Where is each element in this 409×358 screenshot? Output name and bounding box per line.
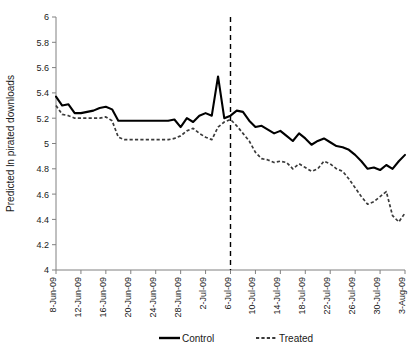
x-tick-label: 2-Jul-09	[198, 277, 208, 310]
legend-label-control: Control	[182, 333, 214, 344]
x-tick-label: 18-Jul-09	[297, 277, 307, 315]
x-tick-label: 22-Jul-09	[322, 277, 332, 315]
line-chart: 44.24.44.64.855.25.45.65.86 8-Jun-0912-J…	[0, 0, 409, 358]
y-tick-label: 4.2	[36, 240, 49, 250]
x-tick-label: 10-Jul-09	[247, 277, 257, 315]
y-tick-label: 5.4	[36, 88, 49, 98]
y-tick-label: 5	[44, 139, 49, 149]
x-tick-label: 30-Jul-09	[372, 277, 382, 315]
y-tick-label: 6	[44, 12, 49, 22]
y-tick-label: 4.8	[36, 164, 49, 174]
x-tick-label: 14-Jul-09	[272, 277, 282, 315]
x-tick-label: 16-Jun-09	[98, 277, 108, 318]
y-tick-label: 4	[44, 265, 49, 275]
x-tick-label: 28-Jun-09	[173, 277, 183, 318]
y-tick-label: 5.2	[36, 114, 49, 124]
y-axis-tick-group: 44.24.44.64.855.25.45.65.86	[36, 12, 56, 275]
y-tick-label: 5.6	[36, 63, 49, 73]
x-tick-label: 12-Jun-09	[73, 277, 83, 318]
x-tick-label: 8-Jun-09	[48, 277, 58, 313]
chart-container: 44.24.44.64.855.25.45.65.86 8-Jun-0912-J…	[0, 0, 409, 358]
y-tick-label: 4.6	[36, 190, 49, 200]
x-axis-tick-group: 8-Jun-0912-Jun-0916-Jun-0920-Jun-0924-Ju…	[48, 270, 407, 318]
y-axis-title: Predicted ln pirated downloads	[5, 75, 16, 212]
legend-label-treated: Treated	[279, 333, 313, 344]
legend: Control Treated	[159, 333, 313, 344]
x-tick-label: 3-Aug-09	[397, 277, 407, 314]
x-tick-label: 24-Jun-09	[148, 277, 158, 318]
x-tick-label: 26-Jul-09	[347, 277, 357, 315]
y-tick-label: 5.8	[36, 38, 49, 48]
x-tick-label: 20-Jun-09	[123, 277, 133, 318]
y-tick-label: 4.4	[36, 215, 49, 225]
x-tick-label: 6-Jul-09	[223, 277, 233, 310]
